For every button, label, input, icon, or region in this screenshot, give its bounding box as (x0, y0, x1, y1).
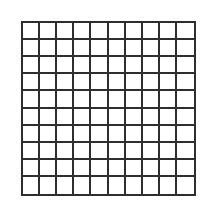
grid-cell (91, 74, 108, 91)
grid-cell (74, 126, 91, 143)
grid-cell (40, 23, 57, 40)
grid-cell (160, 126, 177, 143)
grid-cell (143, 40, 160, 57)
grid-cell (160, 109, 177, 126)
grid-cell (160, 143, 177, 160)
grid-cell (177, 160, 194, 177)
grid-cell (126, 74, 143, 91)
grid-cell (91, 91, 108, 108)
grid-cell (74, 177, 91, 194)
grid-cell (177, 23, 194, 40)
grid-cell (23, 91, 40, 108)
grid-cell (23, 126, 40, 143)
grid-cell (143, 160, 160, 177)
grid-cell (109, 91, 126, 108)
grid-cell (109, 160, 126, 177)
grid-cell (143, 109, 160, 126)
grid-cell (23, 40, 40, 57)
grid-cell (160, 177, 177, 194)
grid-cell (109, 109, 126, 126)
grid-cell (23, 74, 40, 91)
grid-cell (57, 143, 74, 160)
grid-cell (74, 91, 91, 108)
grid-cell (57, 126, 74, 143)
grid-cell (91, 23, 108, 40)
grid-cell (57, 57, 74, 74)
grid-cell (160, 74, 177, 91)
grid-cell (143, 91, 160, 108)
grid-cell (40, 91, 57, 108)
grid-cell (23, 177, 40, 194)
grid-cell (74, 57, 91, 74)
grid-cell (126, 177, 143, 194)
grid-cell (40, 177, 57, 194)
grid-cell (126, 126, 143, 143)
grid-cell (74, 143, 91, 160)
grid-cell (109, 74, 126, 91)
grid-cell (177, 177, 194, 194)
grid-cell (57, 23, 74, 40)
grid-cell (40, 160, 57, 177)
grid-cell (109, 23, 126, 40)
grid-cell (91, 126, 108, 143)
grid-cell (143, 23, 160, 40)
grid-cell (40, 74, 57, 91)
grid-cell (143, 177, 160, 194)
grid-cell (126, 40, 143, 57)
grid-cell (160, 91, 177, 108)
grid-cell (23, 57, 40, 74)
grid-cell (57, 160, 74, 177)
grid-cell (177, 126, 194, 143)
grid-cell (160, 57, 177, 74)
grid-cell (143, 57, 160, 74)
grid-cell (91, 160, 108, 177)
grid-cell (126, 57, 143, 74)
grid-cell (143, 143, 160, 160)
grid-cell (160, 23, 177, 40)
grid-cell (126, 160, 143, 177)
grid-cell (57, 91, 74, 108)
grid-cell (126, 91, 143, 108)
grid-cell (177, 40, 194, 57)
grid-cell (40, 109, 57, 126)
grid-cell (91, 57, 108, 74)
grid-cell (91, 109, 108, 126)
grid-cell (126, 143, 143, 160)
grid-cell (40, 143, 57, 160)
grid-cell (23, 143, 40, 160)
grid-cell (177, 57, 194, 74)
grid-cell (109, 177, 126, 194)
grid-cell (74, 109, 91, 126)
square-grid (21, 21, 196, 196)
grid-cell (91, 40, 108, 57)
grid-cell (91, 143, 108, 160)
grid-cell (23, 23, 40, 40)
grid-cell (143, 74, 160, 91)
grid-cell (177, 74, 194, 91)
grid-cell (74, 40, 91, 57)
grid-cell (160, 40, 177, 57)
grid-cell (126, 23, 143, 40)
grid-cell (40, 40, 57, 57)
grid-cell (109, 57, 126, 74)
grid-cell (40, 57, 57, 74)
grid-cell (74, 74, 91, 91)
grid-cell (74, 160, 91, 177)
grid-cell (57, 74, 74, 91)
grid-cell (109, 40, 126, 57)
grid-cell (177, 109, 194, 126)
grid-cell (57, 177, 74, 194)
grid-cell (177, 91, 194, 108)
grid-cell (23, 109, 40, 126)
grid-cell (126, 109, 143, 126)
grid-cell (109, 143, 126, 160)
grid-cell (23, 160, 40, 177)
grid-cell (177, 143, 194, 160)
grid-cell (160, 160, 177, 177)
grid-cell (40, 126, 57, 143)
grid-cell (74, 23, 91, 40)
grid-cell (57, 40, 74, 57)
grid-cell (91, 177, 108, 194)
grid-cell (109, 126, 126, 143)
grid-cell (143, 126, 160, 143)
